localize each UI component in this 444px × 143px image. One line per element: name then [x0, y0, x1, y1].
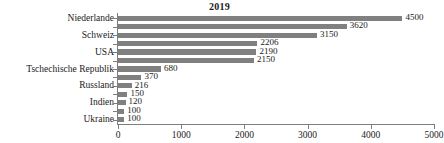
- y-axis-tick: [113, 103, 117, 104]
- x-axis-tick: [434, 125, 435, 129]
- bar-value-label: 3620: [350, 20, 368, 31]
- y-axis-category-label: Schweiz: [82, 30, 114, 41]
- bar: [118, 100, 126, 105]
- x-axis-tick-label: 0: [116, 130, 121, 141]
- x-axis-tick-label: 3000: [298, 130, 317, 141]
- bar-row: 120: [118, 99, 434, 107]
- x-axis-tick-label: 4000: [361, 130, 380, 141]
- bar-value-label: 680: [164, 63, 178, 74]
- bar: [118, 109, 124, 114]
- bar-row: 100: [118, 116, 434, 124]
- bar: [118, 49, 256, 54]
- bar-value-label: 4500: [405, 12, 423, 23]
- y-axis-tick: [113, 120, 117, 121]
- bar-row: 100: [118, 107, 434, 115]
- bar-row: 370: [118, 73, 434, 81]
- x-axis-tick: [181, 125, 182, 129]
- y-axis-category-label: USA: [95, 47, 114, 58]
- y-axis-tick: [113, 94, 117, 95]
- x-axis-tick: [308, 125, 309, 129]
- bar: [118, 117, 124, 122]
- bar-row: 216: [118, 82, 434, 90]
- x-axis-tick: [118, 125, 119, 129]
- bar: [118, 24, 347, 29]
- y-axis-tick: [113, 86, 117, 87]
- y-axis-tick: [113, 18, 117, 19]
- bar: [118, 33, 317, 38]
- bar-value-label: 100: [127, 113, 141, 124]
- x-axis-tick-label: 1000: [172, 130, 191, 141]
- y-axis-tick: [113, 27, 117, 28]
- x-axis-tick: [371, 125, 372, 129]
- bar: [118, 58, 254, 63]
- plot-area: 4500362031502206219021506803702161501201…: [118, 14, 434, 124]
- y-axis-category-label: Indien: [90, 97, 114, 108]
- chart-title: 2019: [0, 1, 439, 13]
- bar-row: 150: [118, 90, 434, 98]
- x-axis-tick: [244, 125, 245, 129]
- bar-value-label: 3150: [320, 29, 338, 40]
- y-axis-category-label: Tschechische Republik: [26, 64, 114, 75]
- bar-row: 4500: [118, 14, 434, 22]
- y-axis-tick: [113, 69, 117, 70]
- bar-row: 2190: [118, 48, 434, 56]
- y-axis-tick: [113, 111, 117, 112]
- y-axis-tick: [113, 77, 117, 78]
- y-axis-tick: [113, 44, 117, 45]
- x-axis-tick-label: 2000: [235, 130, 254, 141]
- y-axis-category-label: Niederlande: [68, 13, 114, 24]
- x-axis-tick-label: 5000: [425, 130, 444, 141]
- y-axis-category-label: Russland: [79, 80, 114, 91]
- bar: [118, 41, 257, 46]
- y-axis-category-label: Ukraine: [83, 114, 114, 125]
- y-axis-tick: [113, 35, 117, 36]
- y-axis-tick: [113, 52, 117, 53]
- bar: [118, 92, 127, 97]
- bar-value-label: 2150: [257, 54, 275, 65]
- x-axis-line: [117, 124, 435, 125]
- bar-row: 3620: [118, 22, 434, 30]
- y-axis-tick: [113, 61, 117, 62]
- bar-row: 680: [118, 65, 434, 73]
